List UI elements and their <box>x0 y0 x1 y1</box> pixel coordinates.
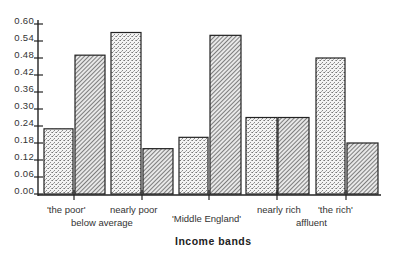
y-tick-label: 0.60 <box>0 16 34 26</box>
bar-hatched-1 <box>143 149 173 194</box>
y-tick-label: 0.30 <box>0 101 34 111</box>
y-tick-label: 0.36 <box>0 84 34 94</box>
group-label-affluent: affluent <box>296 217 327 228</box>
bar-dotted-2 <box>179 137 208 194</box>
y-tick-label: 0.48 <box>0 50 34 60</box>
y-tick-label: 0.00 <box>0 186 34 196</box>
y-tick-label: 0.54 <box>0 33 34 43</box>
bar-hatched-4 <box>347 143 378 194</box>
category-label-the-rich: 'the rich' <box>318 204 353 215</box>
bar-hatched-3 <box>278 118 309 195</box>
bar-hatched-2 <box>210 35 241 194</box>
bar-dotted-4 <box>316 58 345 194</box>
category-label-nearly-rich: nearly rich <box>257 204 301 215</box>
bar-dotted-3 <box>246 118 277 195</box>
y-tick-label: 0.42 <box>0 67 34 77</box>
y-tick-label: 0.18 <box>0 135 34 145</box>
group-label-below-average: below average <box>71 217 133 228</box>
bar-dotted-0 <box>44 129 73 194</box>
category-label-nearly-poor: nearly poor <box>110 204 158 215</box>
bar-chart: 0.000.060.120.180.240.300.360.420.480.54… <box>0 0 395 254</box>
y-tick-label: 0.24 <box>0 118 34 128</box>
bar-hatched-0 <box>75 55 105 194</box>
category-label-the-poor: 'the poor' <box>47 204 86 215</box>
bar-dotted-1 <box>111 33 141 195</box>
category-label-middle-england: 'Middle England' <box>172 213 241 224</box>
x-axis-title: Income bands <box>175 235 252 247</box>
y-tick-label: 0.12 <box>0 152 34 162</box>
y-tick-label: 0.06 <box>0 169 34 179</box>
